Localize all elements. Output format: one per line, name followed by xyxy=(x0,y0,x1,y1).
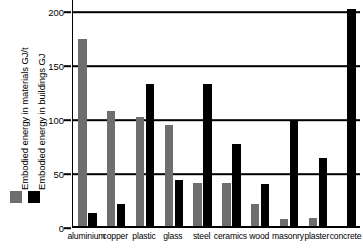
x-label-steel: steel xyxy=(193,231,210,241)
x-label-copper: copper xyxy=(102,231,127,241)
bar-group-aluminium xyxy=(73,0,102,228)
bar-group-wood xyxy=(246,0,275,228)
x-label-aluminium: aluminium xyxy=(67,231,105,241)
legend-swatch-materials xyxy=(10,191,22,203)
bar-group-glass xyxy=(159,0,188,228)
bar-steel-materials xyxy=(193,183,202,228)
x-label-ceramics: ceramics xyxy=(214,231,247,241)
y-tick-label-200: 200 xyxy=(48,7,64,18)
y-tick-mark-100 xyxy=(64,119,71,121)
bar-group-masonry xyxy=(275,0,304,228)
bar-group-copper xyxy=(102,0,131,228)
bar-copper-materials xyxy=(107,111,116,228)
bar-glass-materials xyxy=(165,125,174,228)
bar-plastic-buildings xyxy=(146,84,155,228)
y-tick-mark-150 xyxy=(64,65,71,67)
bar-plastic-materials xyxy=(136,117,145,228)
axis-baseline xyxy=(73,226,360,228)
bar-ceramics-buildings xyxy=(232,144,241,228)
bar-steel-buildings xyxy=(203,84,212,228)
bar-group-concrete xyxy=(332,0,361,228)
bar-wood-buildings xyxy=(261,184,270,228)
x-label-glass: glass xyxy=(163,231,182,241)
plot-inner xyxy=(73,0,360,228)
x-label-masonry: masonry xyxy=(272,231,304,241)
bar-aluminium-materials xyxy=(78,39,87,228)
bar-group-ceramics xyxy=(217,0,246,228)
bar-chart: Embodied energy in materials GJ/t Embodi… xyxy=(0,0,363,250)
x-axis-labels: aluminiumcopperplasticglasssteelceramics… xyxy=(72,231,363,249)
y-tick-mark-200 xyxy=(64,11,71,13)
y-tick-label-100: 100 xyxy=(48,115,64,126)
bar-masonry-buildings xyxy=(290,120,299,228)
y-tick-mark-50 xyxy=(64,173,71,175)
y-tick-mark-0 xyxy=(64,227,71,229)
x-label-plaster: plaster xyxy=(304,231,329,241)
y-tick-label-150: 150 xyxy=(48,61,64,72)
y-tick-label-50: 50 xyxy=(53,169,64,180)
bar-group-plastic xyxy=(131,0,160,228)
bar-wood-materials xyxy=(251,204,260,228)
plot-area xyxy=(72,0,360,228)
bar-group-steel xyxy=(188,0,217,228)
bar-concrete-buildings xyxy=(347,9,356,228)
legend-label-materials: Embodied energy in materials GJ/t xyxy=(20,48,30,190)
y-axis: 200150100500 xyxy=(36,0,72,250)
bar-copper-buildings xyxy=(117,204,126,228)
bar-plaster-buildings xyxy=(319,158,328,228)
x-label-wood: wood xyxy=(249,231,269,241)
bar-ceramics-materials xyxy=(222,183,231,228)
bar-group-plaster xyxy=(303,0,332,228)
bar-glass-buildings xyxy=(175,180,184,228)
x-label-concrete: concrete xyxy=(330,231,362,241)
x-label-plastic: plastic xyxy=(132,231,155,241)
